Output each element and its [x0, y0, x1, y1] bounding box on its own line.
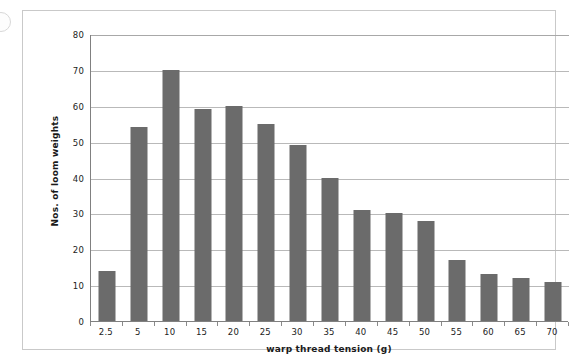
bar-slot	[282, 34, 314, 321]
bar[interactable]	[321, 178, 338, 322]
bar-slot	[442, 34, 474, 321]
x-axis-tick-mark	[536, 322, 537, 326]
x-axis-tick-mark	[504, 322, 505, 326]
x-axis-tick-mark	[281, 322, 282, 326]
bar[interactable]	[353, 210, 370, 321]
y-axis-tick-label: 40	[73, 174, 84, 184]
y-axis-title: Nos. of loom weights	[50, 116, 60, 227]
bar-slot	[155, 34, 187, 321]
bar[interactable]	[417, 221, 434, 321]
bar[interactable]	[194, 109, 211, 321]
x-axis-tick-mark	[345, 322, 346, 326]
y-axis-tick-label: 80	[73, 30, 84, 40]
x-axis-title: warp thread tension (g)	[90, 344, 568, 354]
x-axis-tick-mark	[217, 322, 218, 326]
bar-slot	[378, 34, 410, 321]
x-axis-tick-label: 70	[546, 327, 557, 337]
x-axis-tick-mark	[154, 322, 155, 326]
bar-slot	[473, 34, 505, 321]
plot-area: 01020304050607080	[90, 35, 568, 322]
x-axis-tick-label: 15	[196, 327, 207, 337]
x-axis-tick-label: 25	[260, 327, 271, 337]
x-axis-tick-label: 50	[419, 327, 430, 337]
bar-slot	[123, 34, 155, 321]
bar-slot	[505, 34, 537, 321]
bar-slot	[314, 34, 346, 321]
y-axis-tick-label: 60	[73, 102, 84, 112]
bar[interactable]	[130, 127, 147, 321]
bar-slot	[410, 34, 442, 321]
bar[interactable]	[162, 70, 179, 321]
x-axis-tick-label: 45	[387, 327, 398, 337]
y-axis-tick-label: 0	[78, 317, 84, 327]
bar[interactable]	[258, 124, 275, 321]
bars-layer	[91, 34, 569, 321]
x-axis-tick-label: 2.5	[99, 327, 113, 337]
y-axis-tick-label: 50	[73, 138, 84, 148]
edge-artifact	[0, 12, 11, 32]
x-axis-tick-label: 10	[164, 327, 175, 337]
bar[interactable]	[290, 145, 307, 321]
bar-slot	[218, 34, 250, 321]
y-axis-tick-label: 30	[73, 209, 84, 219]
bar[interactable]	[449, 260, 466, 321]
x-axis-tick-label: 60	[483, 327, 494, 337]
x-axis-tick-mark	[249, 322, 250, 326]
bar-slot	[250, 34, 282, 321]
x-axis-tick-mark	[186, 322, 187, 326]
x-axis-tick-mark	[441, 322, 442, 326]
bar[interactable]	[481, 274, 498, 321]
bar-slot	[91, 34, 123, 321]
y-axis-tick-label: 70	[73, 66, 84, 76]
x-axis-tick-label: 55	[451, 327, 462, 337]
bar-slot	[537, 34, 569, 321]
bar[interactable]	[226, 106, 243, 321]
x-axis-tick-label: 40	[355, 327, 366, 337]
y-axis-tick-label: 10	[73, 281, 84, 291]
bar-slot	[187, 34, 219, 321]
bar[interactable]	[385, 213, 402, 321]
x-axis-tick-mark	[377, 322, 378, 326]
bar-slot	[346, 34, 378, 321]
chart-figure-frame: 01020304050607080 2.55101520253035404550…	[22, 10, 556, 350]
bar[interactable]	[513, 278, 530, 321]
x-axis-tick-mark	[568, 322, 569, 326]
bar[interactable]	[545, 282, 562, 321]
y-axis-tick-label: 20	[73, 245, 84, 255]
x-axis-tick-label: 65	[515, 327, 526, 337]
x-axis-tick-mark	[409, 322, 410, 326]
bar[interactable]	[98, 271, 115, 321]
x-axis-tick-mark	[90, 322, 91, 326]
x-axis-tick-label: 5	[135, 327, 141, 337]
x-axis-tick-mark	[313, 322, 314, 326]
x-axis-tick-label: 30	[292, 327, 303, 337]
x-axis-tick-labels: 2.5510152025303540455055606570	[90, 327, 568, 341]
x-axis-tick-mark	[472, 322, 473, 326]
x-axis-tick-label: 20	[228, 327, 239, 337]
x-axis-tick-label: 35	[323, 327, 334, 337]
x-axis-tick-mark	[122, 322, 123, 326]
